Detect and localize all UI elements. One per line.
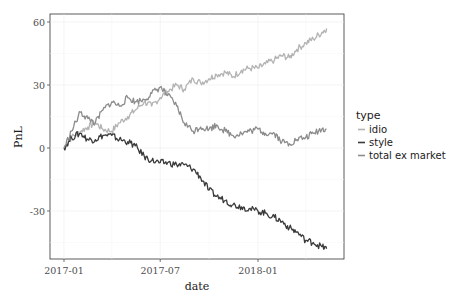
x-tick-label: 2017-07 bbox=[140, 265, 179, 276]
x-tick-label: 2017-01 bbox=[44, 265, 83, 276]
y-tick-label: 30 bbox=[33, 80, 45, 91]
y-tick-label: 0 bbox=[39, 143, 45, 154]
y-tick-label: -30 bbox=[30, 206, 45, 217]
legend: type idiostyletotal ex market bbox=[356, 109, 446, 161]
legend-label: style bbox=[369, 137, 393, 148]
y-axis-title: PnL bbox=[12, 125, 25, 147]
x-axis: 2017-012017-072018-01 bbox=[44, 259, 277, 276]
y-tick-label: 60 bbox=[33, 17, 45, 28]
legend-title: type bbox=[356, 109, 381, 122]
legend-label: total ex market bbox=[369, 150, 446, 161]
legend-label: idio bbox=[369, 124, 387, 135]
plot-panel bbox=[50, 0, 344, 259]
y-axis: 60300-30 bbox=[30, 17, 50, 217]
pnl-line-chart: 60300-30 2017-012017-072018-01 date PnL … bbox=[0, 0, 451, 300]
x-tick-label: 2018-01 bbox=[238, 265, 277, 276]
x-axis-title: date bbox=[185, 280, 210, 293]
